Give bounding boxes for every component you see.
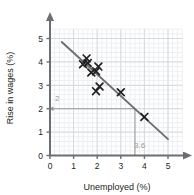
x-tick-label: 5 [166,161,171,171]
y-tick-label: 4 [38,57,43,67]
y-tick-label: 1 [38,127,43,137]
y-tick-label: 3 [38,81,43,91]
y-axis-title: Rise in wages (%) [5,52,15,125]
x-tick-label: 2 [95,161,100,171]
x-tick-label: 1 [71,161,76,171]
y-guide-label: 2 [55,94,60,103]
y-tick-label: 2 [38,104,43,114]
x-axis-title: Unemployed (%) [83,182,150,192]
x-guide-label: 3.6 [134,141,146,150]
x-tick-label: 4 [142,161,147,171]
chart-figure: 012345 012345 Unemployed (%) Rise in wag… [0,0,194,195]
x-tick-label: 0 [48,161,53,171]
x-axis-tick-labels: 012345 [48,161,171,171]
y-tick-label: 0 [38,151,43,161]
scatter-plot: 012345 012345 Unemployed (%) Rise in wag… [0,0,194,195]
y-tick-label: 5 [38,34,43,44]
y-axis-tick-labels: 012345 [38,34,43,161]
x-tick-label: 3 [118,161,123,171]
